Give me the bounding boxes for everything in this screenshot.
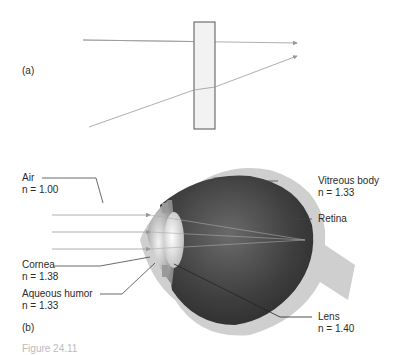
label-cornea-index: n = 1.38	[22, 271, 58, 283]
label-retina: Retina	[318, 213, 347, 225]
label-lens: Lens	[318, 311, 340, 323]
label-vitreous-index: n = 1.33	[318, 187, 354, 199]
figure-caption: Figure 24.11	[22, 343, 77, 355]
panel-a-label: (a)	[22, 65, 34, 77]
label-aqueous-index: n = 1.33	[22, 300, 58, 312]
label-aqueous: Aqueous humor	[22, 288, 93, 300]
ray-refracted	[89, 56, 297, 127]
label-lens-index: n = 1.40	[318, 323, 354, 335]
lens	[164, 212, 184, 268]
iris-top	[162, 203, 168, 213]
panel-a-diagram	[83, 22, 297, 129]
iris-bottom	[162, 265, 168, 277]
label-air: Air	[22, 172, 34, 184]
label-air-index: n = 1.00	[22, 184, 58, 196]
glass-slab	[194, 22, 215, 129]
eye-diagram	[42, 168, 355, 336]
panel-b-label: (b)	[22, 322, 34, 334]
label-vitreous: Vitreous body	[318, 175, 379, 187]
label-cornea: Cornea	[22, 259, 55, 271]
